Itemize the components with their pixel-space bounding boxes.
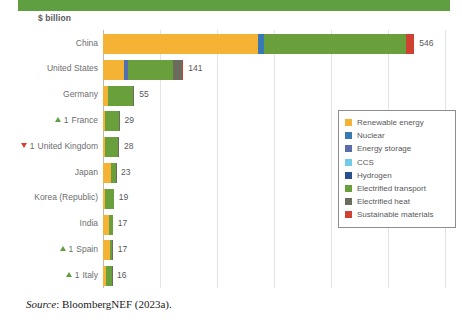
stacked-bar[interactable] xyxy=(103,86,134,106)
rank-change-value: 1 xyxy=(75,270,80,280)
stacked-bar[interactable] xyxy=(103,215,113,235)
category-name: Korea (Republic) xyxy=(34,192,98,202)
bar-segment[interactable] xyxy=(133,86,134,106)
category-name: India xyxy=(80,218,98,228)
bar-value-label: 55 xyxy=(139,89,148,99)
bar-value-label: 546 xyxy=(419,38,433,48)
top-green-banner xyxy=(18,0,450,11)
bar-value-label: 28 xyxy=(124,141,133,151)
legend-label: Sustainable materials xyxy=(357,210,433,219)
legend-swatch-icon xyxy=(345,211,352,218)
bar-segment[interactable] xyxy=(406,34,414,54)
stacked-bar[interactable] xyxy=(103,34,414,54)
legend-label: CCS xyxy=(357,158,374,167)
legend-swatch-icon xyxy=(345,159,352,166)
category-name: United Kingdom xyxy=(38,141,98,151)
legend-item[interactable]: Nuclear xyxy=(345,129,450,142)
bar-segment[interactable] xyxy=(108,86,134,106)
bar-value-label: 16 xyxy=(117,270,126,280)
bar-segment[interactable] xyxy=(103,34,258,54)
legend-label: Electrified transport xyxy=(357,184,426,193)
legend-label: Hydrogen xyxy=(357,171,392,180)
legend-swatch-icon xyxy=(345,145,352,152)
bar-value-label: 23 xyxy=(121,167,130,177)
category-label: Korea (Republic) xyxy=(34,192,98,202)
bar-segment[interactable] xyxy=(105,189,114,209)
bar-segment[interactable] xyxy=(105,111,119,131)
bar-value-label: 29 xyxy=(125,115,134,125)
bar-value-label: 17 xyxy=(118,244,127,254)
rank-change-value: 1 xyxy=(69,244,74,254)
bar-segment[interactable] xyxy=(105,137,119,157)
category-name: Spain xyxy=(76,244,98,254)
legend-item[interactable]: Sustainable materials xyxy=(345,208,450,221)
stacked-bar[interactable] xyxy=(103,163,116,183)
legend-item[interactable]: Electrified transport xyxy=(345,182,450,195)
legend-label: Renewable energy xyxy=(357,118,424,127)
bar-segment[interactable] xyxy=(118,137,119,157)
source-label: Source xyxy=(26,298,56,310)
category-label: Germany xyxy=(63,89,98,99)
category-label: 1Italy xyxy=(66,270,98,280)
category-name: China xyxy=(76,38,98,48)
chart-bar-row: Germany55 xyxy=(103,82,445,108)
legend-item[interactable]: Renewable energy xyxy=(345,116,450,129)
stacked-bar[interactable] xyxy=(103,60,183,80)
bar-segment[interactable] xyxy=(109,215,112,235)
legend-label: Nuclear xyxy=(357,131,385,140)
category-name: Germany xyxy=(63,89,98,99)
rank-change-value: 1 xyxy=(30,141,35,151)
bar-segment[interactable] xyxy=(128,60,172,80)
source-text: : BloombergNEF (2023a). xyxy=(56,298,172,310)
rank-change-value: 1 xyxy=(64,115,69,125)
bar-segment[interactable] xyxy=(116,163,117,183)
rank-down-icon xyxy=(21,143,27,148)
legend-item[interactable]: Electrified heat xyxy=(345,195,450,208)
bar-segment[interactable] xyxy=(182,60,184,80)
bar-segment[interactable] xyxy=(103,60,124,80)
category-label: India xyxy=(80,218,98,228)
category-label: Japan xyxy=(75,167,98,177)
bar-segment[interactable] xyxy=(112,266,113,286)
legend-item[interactable]: Hydrogen xyxy=(345,169,450,182)
legend-swatch-icon xyxy=(345,172,352,179)
category-name: United States xyxy=(47,63,98,73)
stacked-bar[interactable] xyxy=(103,266,112,286)
stacked-bar[interactable] xyxy=(103,240,113,260)
legend-item[interactable]: Energy storage xyxy=(345,142,450,155)
category-name: Japan xyxy=(75,167,98,177)
rank-up-icon xyxy=(55,117,61,122)
legend-swatch-icon xyxy=(345,132,352,139)
axis-unit-label: $ billion xyxy=(38,13,71,23)
legend-swatch-icon xyxy=(345,198,352,205)
bar-segment[interactable] xyxy=(173,60,182,80)
chart-bar-row: 1Italy16 xyxy=(103,262,445,288)
bar-segment[interactable] xyxy=(119,111,120,131)
category-name: France xyxy=(72,115,98,125)
legend-label: Energy storage xyxy=(357,144,411,153)
legend-label: Electrified heat xyxy=(357,197,410,206)
bar-segment[interactable] xyxy=(112,240,113,260)
bar-segment[interactable] xyxy=(103,163,111,183)
category-label: United States xyxy=(47,63,98,73)
bar-value-label: 19 xyxy=(119,192,128,202)
rank-up-icon xyxy=(66,272,72,277)
category-label: 1Spain xyxy=(60,244,98,254)
legend-item[interactable]: CCS xyxy=(345,156,450,169)
bar-segment[interactable] xyxy=(264,34,407,54)
stacked-bar[interactable] xyxy=(103,137,119,157)
legend-swatch-icon xyxy=(345,119,352,126)
category-label: China xyxy=(76,38,98,48)
source-note: Source: BloombergNEF (2023a). xyxy=(26,298,172,310)
chart-bar-row: United States141 xyxy=(103,56,445,82)
stacked-bar[interactable] xyxy=(103,189,114,209)
chart-bar-row: China546 xyxy=(103,30,445,56)
legend-swatch-icon xyxy=(345,185,352,192)
bar-value-label: 17 xyxy=(118,218,127,228)
category-label: 1United Kingdom xyxy=(21,141,98,151)
rank-up-icon xyxy=(60,246,66,251)
chart-bar-row: 1Spain17 xyxy=(103,236,445,262)
bar-segment[interactable] xyxy=(103,240,110,260)
stacked-bar[interactable] xyxy=(103,111,120,131)
category-name: Italy xyxy=(82,270,98,280)
